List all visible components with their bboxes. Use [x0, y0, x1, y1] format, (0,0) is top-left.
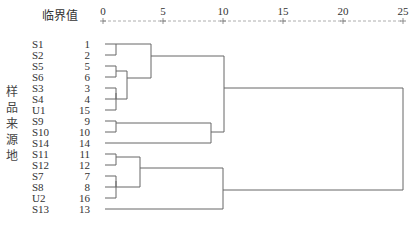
- sample-id: 13: [79, 203, 91, 215]
- dendrogram: 临界值 0 5 10 15 20 25 样 品 来 源 地 S1 1 S2 2 …: [0, 0, 410, 225]
- svg-text:来: 来: [6, 117, 18, 131]
- tick-label: 25: [398, 5, 410, 17]
- svg-text:品: 品: [6, 101, 18, 115]
- svg-text:源: 源: [6, 133, 18, 147]
- tick-label: 5: [160, 5, 166, 17]
- svg-text:地: 地: [6, 149, 18, 163]
- tick-label: 15: [278, 5, 290, 17]
- svg-text:样: 样: [6, 84, 18, 99]
- sample-name: S13: [32, 203, 50, 215]
- x-axis: 0 5 10 15 20 25: [100, 5, 409, 24]
- tick-label: 10: [218, 5, 230, 17]
- tick-label: 0: [100, 5, 106, 17]
- tick-label: 20: [338, 5, 350, 17]
- y-axis-label: 样 品 来 源 地: [6, 84, 18, 163]
- dendrogram-branches: [105, 44, 403, 209]
- axis-title: 临界值: [42, 8, 78, 23]
- sample-labels: S1 1 S2 2 S5 5 S6 6 S3 3 S4 4 U1 15 S9 9…: [32, 38, 91, 215]
